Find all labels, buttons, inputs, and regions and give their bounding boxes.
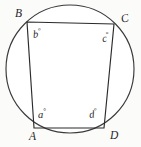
angle-label-b: b°: [32, 28, 41, 41]
angle-label-a: a°: [38, 108, 46, 120]
vertex-label-c: C: [120, 12, 130, 25]
geometry-figure: B C D A b° c° a° d°: [0, 0, 141, 147]
vertex-label-a: A: [29, 131, 36, 143]
figure-canvas: [0, 0, 141, 147]
angle-label-d: d°: [88, 108, 97, 121]
degree-symbol-b: °: [38, 27, 41, 35]
vertex-label-b: B: [15, 8, 22, 20]
vertex-label-d: D: [110, 130, 118, 142]
degree-symbol-a: °: [43, 107, 46, 115]
circumscribed-circle: [6, 5, 134, 133]
